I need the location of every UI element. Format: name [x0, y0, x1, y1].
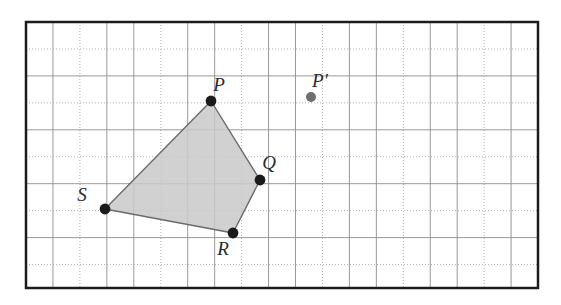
vertex-dot-r[interactable] — [228, 228, 239, 239]
vertex-dot-q[interactable] — [255, 175, 266, 186]
figure-background — [0, 0, 561, 305]
vertex-label-r: R — [216, 238, 229, 259]
vertex-label-p: P — [212, 74, 225, 95]
vertex-label-s: S — [77, 184, 87, 205]
grid-diagram-canvas: P′ PQRS — [0, 0, 561, 305]
geometry-figure: P′ PQRS — [0, 0, 561, 305]
vertex-dot-p[interactable] — [206, 96, 217, 107]
vertex-dot-s[interactable] — [100, 204, 111, 215]
image-point-label-p-prime: P′ — [311, 70, 329, 91]
vertex-label-q: Q — [262, 152, 276, 173]
image-point-dot-p-prime[interactable] — [306, 92, 316, 102]
